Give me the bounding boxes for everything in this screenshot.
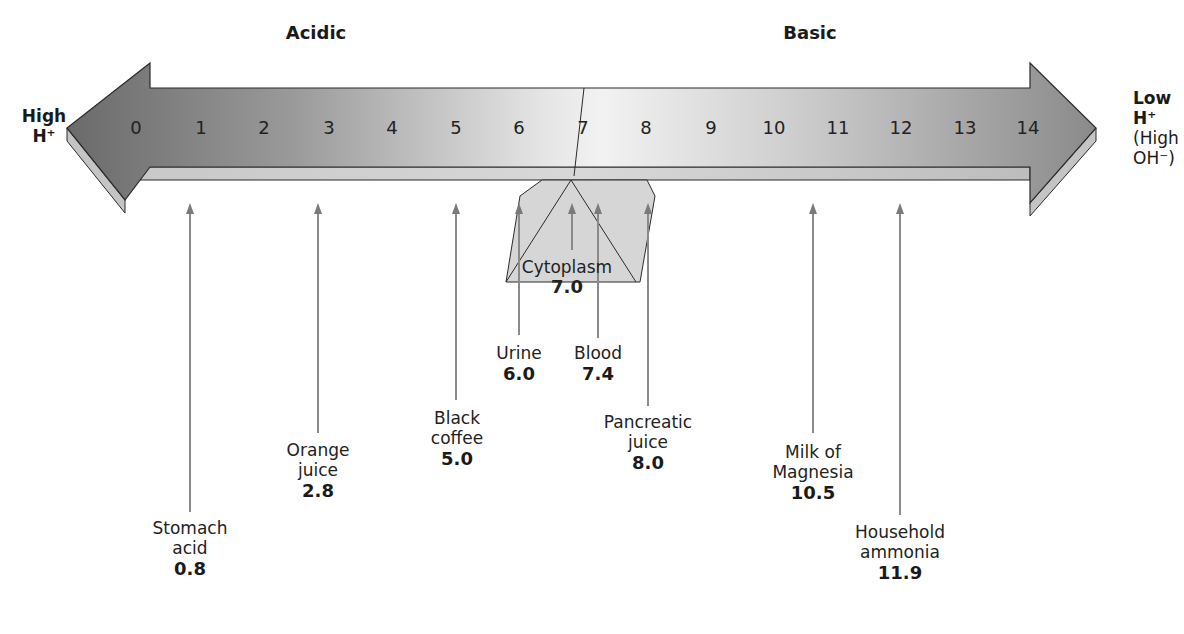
tick-13: 13 (954, 117, 977, 138)
ph-value: 5.0 (431, 448, 483, 469)
tick-4: 4 (386, 117, 397, 138)
label-stomach-acid: Stomach acid 0.8 (153, 518, 228, 579)
tick-7: 7 (577, 117, 588, 138)
ph-value: 11.9 (855, 562, 945, 583)
acidic-heading: Acidic (286, 22, 347, 43)
substance-name-2: juice (628, 432, 668, 452)
right-end-line3: (High (1133, 128, 1179, 148)
substance-name-2: coffee (431, 428, 483, 448)
right-end-line1: Low (1133, 88, 1171, 108)
substance-name: Milk of (785, 442, 841, 462)
tick-14: 14 (1017, 117, 1040, 138)
tick-0: 0 (130, 117, 141, 138)
label-black-coffee: Black coffee 5.0 (431, 408, 483, 469)
substance-name: Orange (287, 440, 350, 460)
tick-10: 10 (763, 117, 786, 138)
label-blood: Blood 7.4 (574, 343, 622, 384)
right-end-line4: OH⁻) (1133, 148, 1175, 168)
ph-value: 0.8 (153, 558, 228, 579)
substance-name-2: juice (298, 460, 338, 480)
tick-2: 2 (258, 117, 269, 138)
left-end-line1: High (22, 106, 66, 126)
label-cytoplasm: Cytoplasm 7.0 (522, 257, 612, 297)
substance-name: Urine (496, 343, 541, 363)
left-end-line2: H⁺ (32, 126, 55, 146)
basic-heading: Basic (783, 22, 836, 43)
tick-8: 8 (640, 117, 651, 138)
tick-5: 5 (450, 117, 461, 138)
substance-name: Stomach (153, 518, 228, 538)
substance-name: Household (855, 522, 945, 542)
right-end-label: Low H⁺ (High OH⁻) (1133, 88, 1179, 168)
substance-name-2: ammonia (860, 542, 940, 562)
right-end-line2: H⁺ (1133, 108, 1156, 128)
ph-value: 8.0 (604, 452, 692, 473)
ph-value: 10.5 (772, 482, 853, 503)
substance-name: Cytoplasm (522, 257, 612, 277)
tick-11: 11 (827, 117, 850, 138)
label-household-ammonia: Household ammonia 11.9 (855, 522, 945, 583)
label-urine: Urine 6.0 (496, 343, 541, 384)
label-milk-of-magnesia: Milk of Magnesia 10.5 (772, 442, 853, 503)
tick-12: 12 (890, 117, 913, 138)
ph-value: 7.4 (574, 363, 622, 384)
substance-name: Blood (574, 343, 622, 363)
label-pancreatic-juice: Pancreatic juice 8.0 (604, 412, 692, 473)
tick-6: 6 (513, 117, 524, 138)
left-end-label: High H⁺ (18, 106, 70, 146)
ph-value: 6.0 (496, 363, 541, 384)
ph-value: 7.0 (522, 277, 612, 297)
ph-scale-diagram: Acidic Basic High H⁺ Low H⁺ (High OH⁻) 0… (0, 0, 1184, 634)
ph-value: 2.8 (287, 480, 350, 501)
substance-name: Pancreatic (604, 412, 692, 432)
substance-name-2: Magnesia (772, 462, 853, 482)
tick-1: 1 (195, 117, 206, 138)
substance-name-2: acid (172, 538, 207, 558)
substance-name: Black (434, 408, 480, 428)
tick-3: 3 (323, 117, 334, 138)
label-orange-juice: Orange juice 2.8 (287, 440, 350, 501)
tick-9: 9 (705, 117, 716, 138)
